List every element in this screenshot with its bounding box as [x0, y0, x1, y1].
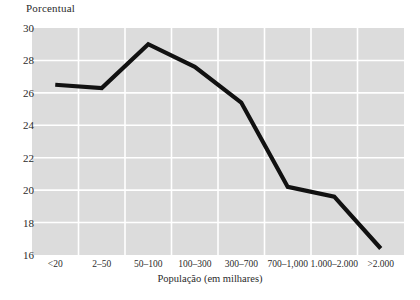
x-axis-tick-label: 700–1,000 — [268, 259, 308, 269]
figure-caption-clipped — [10, 288, 410, 300]
x-axis-tick-label: 2–50 — [92, 259, 111, 269]
y-axis-tick-label: 26 — [10, 87, 34, 99]
y-axis-tick-label: 18 — [10, 217, 34, 229]
x-axis-tick-label: 1.000–2.000 — [311, 259, 359, 269]
y-axis-tick-label: 30 — [10, 22, 34, 34]
y-axis-title: Porcentual — [26, 2, 75, 14]
x-axis-title: População (em milhares) — [0, 273, 420, 284]
chart-figure: Porcentual 3028262422201816 <202–5050–10… — [0, 0, 420, 300]
x-axis-tick-label: 50–100 — [134, 259, 163, 269]
x-axis-tick-label: 300–700 — [225, 259, 258, 269]
y-axis-tick-label: 28 — [10, 54, 34, 66]
gridlines-vertical — [79, 28, 358, 255]
x-axis-tick-label: >2.000 — [367, 259, 394, 269]
y-axis-tick-label: 16 — [10, 249, 34, 261]
plot-area — [32, 28, 404, 255]
x-axis-tick-label: <20 — [48, 259, 63, 269]
y-axis-tick-label: 24 — [10, 119, 34, 131]
y-axis-tick-label: 22 — [10, 152, 34, 164]
plot-svg — [32, 28, 404, 255]
x-axis-tick-label: 100–300 — [178, 259, 211, 269]
y-axis-tick-label: 20 — [10, 184, 34, 196]
